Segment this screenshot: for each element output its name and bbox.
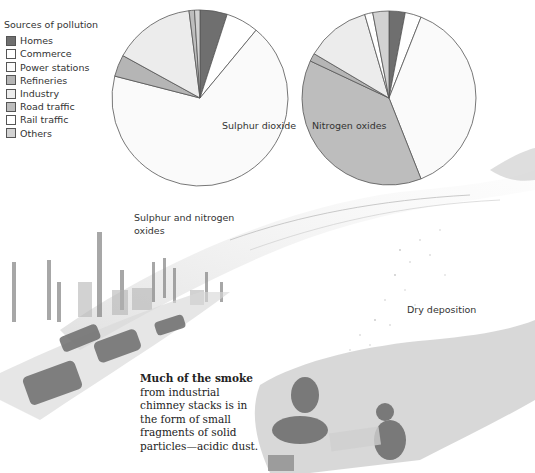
legend-swatch [6,128,16,138]
oxides-label: Sulphur and nitrogen oxides [134,211,234,237]
legend-label: Others [20,127,52,140]
legend-title: Sources of pollution [4,18,98,31]
legend-label: Homes [20,34,53,47]
oxides-label-line1: Sulphur and nitrogen [134,211,234,224]
legend-label: Power stations [20,61,89,74]
body-paragraph: Much of the smoke from industrial chimne… [140,372,260,454]
body-lead: Much of the smoke [140,372,253,384]
legend-item: Industry [4,87,98,100]
legend-label: Commerce [20,47,72,60]
dry-deposition-label: Dry deposition [407,303,476,316]
nox-pie-label: Nitrogen oxides [312,120,387,131]
body-rest: from industrial chimney stacks is in the… [140,386,258,452]
legend-swatch [6,89,16,99]
legend-swatch [6,36,16,46]
so2-pie [112,10,288,186]
legend-swatch [6,62,16,72]
legend-item: Road traffic [4,100,98,113]
oxides-label-line2: oxides [134,224,234,237]
legend-swatch [6,75,16,85]
so2-pie-label: Sulphur dioxide [222,120,296,131]
legend-item: Commerce [4,47,98,60]
legend-label: Rail traffic [20,113,68,126]
legend-swatch [6,115,16,125]
legend-swatch [6,102,16,112]
legend-label: Road traffic [20,100,75,113]
legend-item: Rail traffic [4,113,98,126]
legend-swatch [6,49,16,59]
nox-pie [302,11,476,185]
legend-item: Homes [4,34,98,47]
legend-item: Refineries [4,74,98,87]
legend-label: Refineries [20,74,67,87]
legend-item: Power stations [4,61,98,74]
legend: Sources of pollution HomesCommercePower … [4,18,98,140]
legend-item: Others [4,127,98,140]
legend-label: Industry [20,87,59,100]
